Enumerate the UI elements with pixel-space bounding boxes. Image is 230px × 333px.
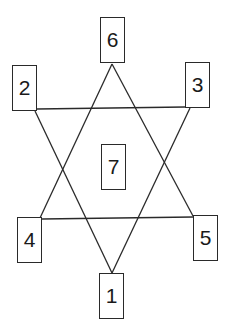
edge-6-4 xyxy=(40,64,112,218)
node-6: 6 xyxy=(100,17,125,63)
edge-2-3 xyxy=(37,107,185,109)
node-3: 3 xyxy=(185,62,210,108)
edge-2-1 xyxy=(35,111,112,273)
edge-4-5 xyxy=(42,217,193,219)
node-7: 7 xyxy=(101,144,126,190)
edge-6-5 xyxy=(112,64,193,216)
edge-3-1 xyxy=(112,108,190,273)
node-1: 1 xyxy=(99,273,124,319)
node-4: 4 xyxy=(17,217,42,263)
node-5: 5 xyxy=(193,215,218,261)
node-2: 2 xyxy=(12,65,37,111)
